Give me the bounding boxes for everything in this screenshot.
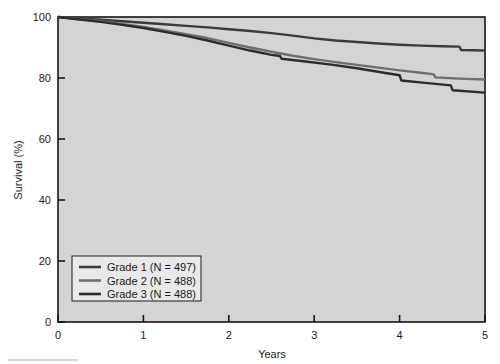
legend-label-3: Grade 3 (N = 488) [107, 288, 196, 300]
x-axis-title: Years [258, 348, 286, 360]
survival-curve-chart: 020406080100 012345 Survival (%) Years G… [0, 0, 500, 364]
x-tick-label: 4 [397, 329, 403, 341]
legend: Grade 1 (N = 497)Grade 2 (N = 488)Grade … [72, 256, 201, 301]
x-tick-label: 5 [482, 329, 488, 341]
x-tick-label: 0 [55, 329, 61, 341]
y-tick-label: 100 [33, 11, 51, 23]
y-tick-label: 0 [45, 316, 51, 328]
x-tick-label: 1 [140, 329, 146, 341]
x-tick-label: 2 [226, 329, 232, 341]
y-tick-label: 60 [39, 133, 51, 145]
y-tick-label: 20 [39, 255, 51, 267]
legend-label-2: Grade 2 (N = 488) [107, 275, 196, 287]
y-axis-title: Survival (%) [12, 140, 24, 199]
x-tick-label: 3 [311, 329, 317, 341]
y-tick-label: 80 [39, 72, 51, 84]
y-tick-label: 40 [39, 194, 51, 206]
legend-label-1: Grade 1 (N = 497) [107, 261, 196, 273]
